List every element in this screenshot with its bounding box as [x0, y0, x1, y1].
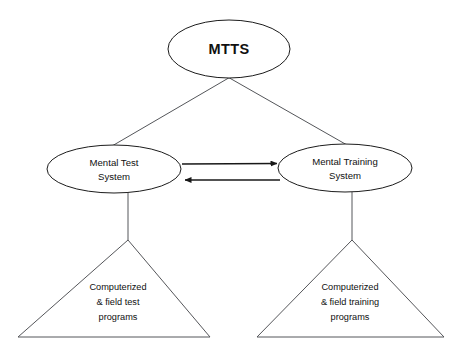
test-programs-label-line-2: & field test [97, 297, 140, 307]
mental-test-system-label-line-2: System [98, 171, 130, 182]
connector-root-to-mental-training-system [226, 76, 347, 145]
mental-test-system-label-line-1: Mental Test [90, 157, 139, 168]
training-programs-label-line-3: programs [331, 312, 370, 322]
mtts-label: MTTS [208, 41, 249, 57]
root-to-branch-connectors [112, 76, 347, 146]
test-programs-label-line-1: Computerized [89, 282, 146, 292]
mental-training-system-label-line-1: Mental Training [312, 156, 378, 167]
mental-training-system-label-line-2: System [329, 170, 361, 181]
connector-root-to-mental-test-system [112, 76, 232, 146]
test-programs-label-line-3: programs [99, 312, 138, 322]
node-mental-training-system[interactable]: Mental Training System [278, 144, 412, 192]
training-programs-label-line-2: & field training [321, 297, 379, 307]
mental-training-system-ellipse [278, 144, 412, 192]
node-computerized-field-test-programs[interactable]: Computerized & field test programs [18, 240, 210, 337]
node-mental-test-system[interactable]: Mental Test System [47, 145, 181, 193]
branch-to-leaf-connectors [128, 192, 352, 241]
mental-test-system-ellipse [47, 145, 181, 193]
node-computerized-field-training-programs[interactable]: Computerized & field training programs [257, 240, 444, 337]
node-mtts[interactable]: MTTS [168, 20, 290, 78]
diagram-root: MTTS Mental Test System Mental Training … [0, 0, 462, 358]
arrow-test-to-training [182, 164, 277, 165]
bidirectional-arrow-group [182, 164, 280, 181]
training-programs-label-line-1: Computerized [321, 282, 378, 292]
diagram-canvas: MTTS Mental Test System Mental Training … [0, 0, 462, 358]
